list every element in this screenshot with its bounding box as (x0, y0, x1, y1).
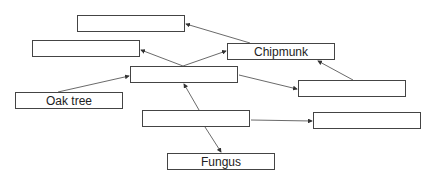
arrow-c-to-b (141, 50, 183, 66)
node-e-blank (298, 80, 406, 97)
node-h-blank (313, 112, 421, 129)
node-g-blank (142, 110, 250, 127)
arrow-oak-to-c (58, 76, 129, 92)
node-b-blank (32, 40, 140, 57)
arrow-g-to-h (251, 120, 312, 121)
node-c-blank (130, 66, 238, 83)
arrow-c-to-chipmunk (183, 51, 226, 66)
node-chipmunk: Chipmunk (227, 43, 335, 60)
arrow-chipmunk-to-a (186, 24, 250, 43)
arrow-g-to-c (184, 84, 199, 110)
arrow-g-to-fungus (205, 127, 221, 152)
node-a-blank (77, 15, 185, 32)
node-oak-tree: Oak tree (15, 92, 123, 109)
arrow-c-to-e (239, 75, 297, 89)
node-fungus: Fungus (167, 153, 275, 170)
arrow-e-to-chipmunk (318, 61, 353, 80)
